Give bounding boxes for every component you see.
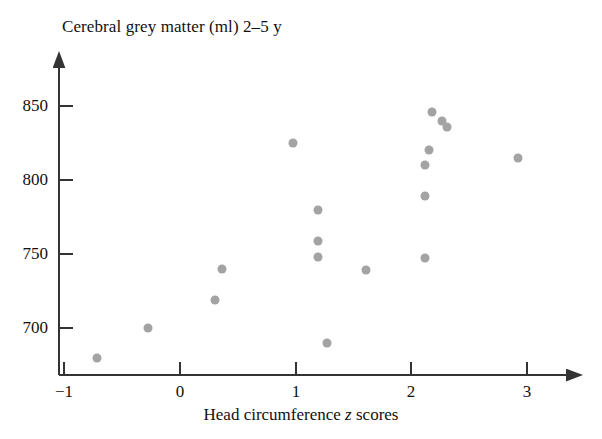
data-point bbox=[362, 266, 371, 275]
data-point bbox=[210, 295, 219, 304]
x-axis-title-variable: z bbox=[345, 405, 352, 424]
y-tick-label-750: 750 bbox=[2, 244, 48, 264]
data-point bbox=[513, 153, 522, 162]
data-point bbox=[313, 205, 322, 214]
data-point bbox=[92, 353, 101, 362]
data-point bbox=[443, 122, 452, 131]
scatter-plot-figure: Cerebral grey matter (ml) 2–5 y 850 800 … bbox=[0, 0, 602, 439]
y-tick-label-700: 700 bbox=[2, 318, 48, 338]
data-point bbox=[217, 264, 226, 273]
x-axis-title: Head circumference z scores bbox=[0, 405, 602, 425]
data-point bbox=[313, 253, 322, 262]
data-point bbox=[313, 236, 322, 245]
x-axis-title-suffix: scores bbox=[352, 405, 399, 424]
x-tick-label-2: 2 bbox=[391, 382, 431, 402]
x-axis-title-prefix: Head circumference bbox=[204, 405, 346, 424]
data-point bbox=[421, 192, 430, 201]
x-tick-label-1: 1 bbox=[276, 382, 316, 402]
data-point bbox=[424, 146, 433, 155]
chart-axes bbox=[0, 0, 602, 439]
data-point bbox=[143, 324, 152, 333]
data-point bbox=[322, 338, 331, 347]
data-point bbox=[421, 254, 430, 263]
x-tick-label-minus1: −1 bbox=[44, 382, 84, 402]
data-point bbox=[428, 107, 437, 116]
y-tick-label-850: 850 bbox=[2, 96, 48, 116]
x-tick-label-0: 0 bbox=[160, 382, 200, 402]
data-point bbox=[289, 139, 298, 148]
y-tick-label-800: 800 bbox=[2, 170, 48, 190]
x-tick-label-3: 3 bbox=[507, 382, 547, 402]
data-point bbox=[421, 161, 430, 170]
